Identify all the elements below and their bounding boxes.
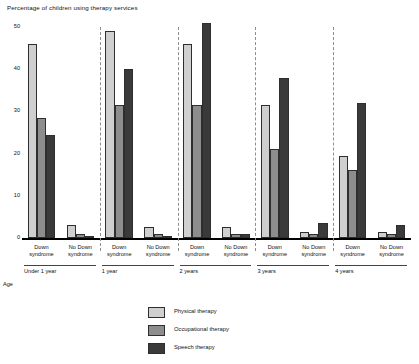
x-axis-age-groups: Under 1 year1 year2 years3 years4 years xyxy=(22,265,411,289)
age-group-rule xyxy=(102,265,174,266)
y-tick-label: 30 xyxy=(4,109,20,115)
legend-item[interactable]: Physical therapy xyxy=(148,306,328,324)
legend-label-speech-therapy: Speech therapy xyxy=(174,344,215,350)
x-axis-title: Age xyxy=(3,281,13,287)
legend-swatch-occupational-therapy xyxy=(148,325,165,336)
bar xyxy=(67,225,76,238)
bar xyxy=(378,232,387,238)
bar xyxy=(183,44,192,238)
age-group-divider xyxy=(100,27,101,251)
age-group-label: 2 years xyxy=(180,268,198,274)
y-axis: 01020304050 xyxy=(0,0,20,364)
subgroup-label: No Downsyndrome xyxy=(372,244,411,259)
bar xyxy=(348,170,357,238)
bar xyxy=(37,118,46,238)
y-tick-label: 0 xyxy=(4,235,20,241)
chart-title: Percentage of children using therapy ser… xyxy=(7,4,138,11)
age-group-rule xyxy=(24,265,96,266)
bar xyxy=(144,227,153,238)
age-group-divider xyxy=(333,27,334,251)
legend-swatch-speech-therapy xyxy=(148,343,165,354)
bar xyxy=(115,105,124,238)
legend-swatch-physical-therapy xyxy=(148,307,165,318)
age-group-rule xyxy=(180,265,252,266)
bar xyxy=(124,69,133,238)
bar-chart: Percentage of children using therapy ser… xyxy=(0,0,419,364)
bar xyxy=(154,234,163,238)
legend-label-physical-therapy: Physical therapy xyxy=(174,308,217,314)
legend-item[interactable]: Occupational therapy xyxy=(148,324,328,342)
y-tick-label: 40 xyxy=(4,66,20,72)
subgroup-label: Downsyndrome xyxy=(100,244,139,259)
bar xyxy=(222,227,231,238)
subgroup-label: No Downsyndrome xyxy=(294,244,333,259)
subgroup-label: Downsyndrome xyxy=(22,244,61,259)
bar xyxy=(202,23,211,238)
bar xyxy=(85,236,94,238)
bar xyxy=(270,149,279,238)
y-tick-label: 50 xyxy=(4,24,20,30)
x-axis-baseline xyxy=(22,238,411,240)
bar xyxy=(300,232,309,238)
bars-layer xyxy=(22,27,411,238)
bar xyxy=(396,225,405,238)
bar xyxy=(279,78,288,238)
bar xyxy=(231,234,240,238)
age-group-rule xyxy=(257,265,329,266)
bar xyxy=(387,234,396,238)
bar xyxy=(105,31,114,238)
y-tick-label: 20 xyxy=(4,151,20,157)
bar xyxy=(46,135,55,238)
age-group-label: 1 year xyxy=(102,268,118,274)
subgroup-label: Downsyndrome xyxy=(178,244,217,259)
bar xyxy=(192,105,201,238)
bar xyxy=(339,156,348,238)
bar xyxy=(309,234,318,238)
bar xyxy=(28,44,37,238)
y-tick-label: 10 xyxy=(4,193,20,199)
age-group-label: 3 years xyxy=(257,268,275,274)
subgroup-label: Downsyndrome xyxy=(333,244,372,259)
subgroup-label: No Downsyndrome xyxy=(217,244,256,259)
age-group-divider xyxy=(178,27,179,251)
age-group-label: Under 1 year xyxy=(24,268,56,274)
bar xyxy=(76,234,85,238)
bar xyxy=(357,103,366,238)
subgroup-label: No Downsyndrome xyxy=(61,244,100,259)
legend-label-occupational-therapy: Occupational therapy xyxy=(174,326,229,332)
bar xyxy=(163,236,172,238)
legend-item[interactable]: Speech therapy xyxy=(148,342,328,360)
subgroup-label: No Downsyndrome xyxy=(139,244,178,259)
age-group-divider xyxy=(255,27,256,251)
bar xyxy=(241,234,250,238)
chart-legend: Physical therapy Occupational therapy Sp… xyxy=(148,306,328,360)
bar xyxy=(318,223,327,238)
subgroup-label: Downsyndrome xyxy=(255,244,294,259)
bar xyxy=(261,105,270,238)
age-group-rule xyxy=(335,265,407,266)
age-group-label: 4 years xyxy=(335,268,353,274)
